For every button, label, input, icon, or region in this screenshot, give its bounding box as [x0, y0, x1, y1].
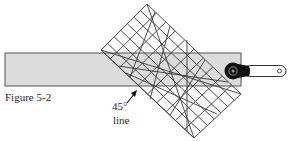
- figure-5-2-illustration: [0, 0, 289, 141]
- rotary-cutter-icon: [225, 63, 287, 80]
- arrow-icon: [127, 90, 137, 103]
- angle-label: 45°: [112, 101, 127, 112]
- figure-caption: Figure 5-2: [5, 92, 51, 103]
- line-label: line: [113, 115, 130, 126]
